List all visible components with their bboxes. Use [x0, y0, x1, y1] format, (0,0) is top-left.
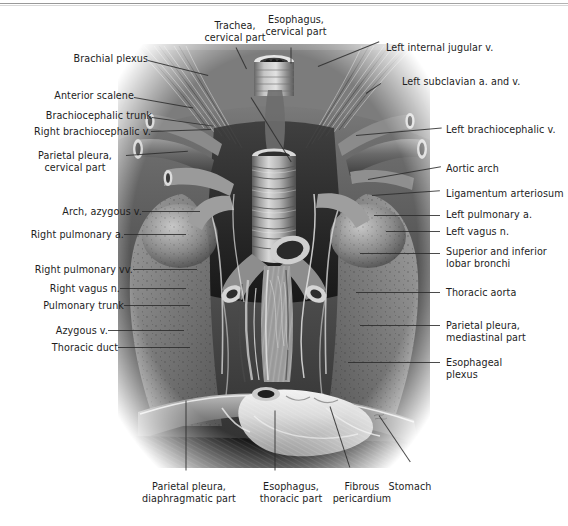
- label-right-vagus-n: Right vagus n.: [0, 283, 120, 295]
- label-anterior-scalene: Anterior scalene: [0, 90, 134, 102]
- label-left-internal-jugular-v: Left internal jugular v.: [386, 42, 566, 54]
- label-left-vagus-n: Left vagus n.: [446, 226, 568, 238]
- leader-lobar-bronchi: [360, 253, 440, 254]
- label-brachial-plexus: Brachial plexus: [0, 53, 148, 65]
- label-left-subclavian-a-and-v: Left subclavian a. and v.: [402, 76, 568, 88]
- label-arch-azygous-v: Arch, azygous v.: [0, 206, 142, 218]
- label-brachiocephalic-trunk: Brachiocephalic trunk: [0, 110, 152, 122]
- label-thoracic-aorta: Thoracic aorta: [446, 287, 568, 299]
- leader-right-pulmonary-vv: [133, 269, 197, 270]
- label-thoracic-duct: Thoracic duct: [0, 342, 118, 354]
- label-aortic-arch: Aortic arch: [446, 163, 568, 175]
- label-right-brachiocephalic-v: Right brachiocephalic v.: [0, 126, 151, 138]
- leader-esophageal-plexus: [348, 362, 440, 363]
- leader-parietal-pleura-diaphragmatic: [186, 401, 187, 471]
- label-ligamentum-arteriosum: Ligamentum arteriosum: [446, 188, 568, 200]
- page-edge-rule: [0, 3, 568, 4]
- mediastinum-illustration: [118, 44, 430, 468]
- leader-azygous-v: [108, 330, 184, 331]
- label-stomach: Stomach: [381, 481, 439, 493]
- label-esophagus-cervical: Esophagus, cervical part: [246, 14, 346, 37]
- label-pulmonary-trunk: Pulmonary trunk: [0, 300, 124, 312]
- label-left-brachiocephalic-v: Left brachiocephalic v.: [446, 124, 568, 136]
- leader-parietal-pleura-mediastinal: [360, 325, 440, 326]
- leader-thoracic-duct: [118, 347, 190, 348]
- label-azygous-v: Azygous v.: [0, 325, 108, 337]
- leader-pulmonary-trunk: [124, 305, 190, 306]
- label-parietal-pleura-diaphragmatic: Parietal pleura, diaphragmatic part: [141, 481, 237, 504]
- label-parietal-pleura-cervical: Parietal pleura, cervical part: [24, 150, 126, 173]
- leader-left-vagus-n: [386, 231, 440, 232]
- leader-esophagus-cervical: [291, 48, 292, 64]
- label-right-pulmonary-vv: Right pulmonary vv.: [0, 264, 133, 276]
- label-esophagus-thoracic: Esophagus, thoracic part: [250, 481, 332, 504]
- leader-right-vagus-n: [120, 288, 186, 289]
- leader-arch-azygous-v: [142, 211, 200, 212]
- label-parietal-pleura-mediastinal: Parietal pleura, mediastinal part: [446, 320, 568, 343]
- anatomical-plate: Brachial plexus Anterior scalene Brachio…: [0, 0, 568, 526]
- label-right-pulmonary-a: Right pulmonary a.: [0, 229, 124, 241]
- leader-thoracic-aorta: [356, 292, 440, 293]
- leader-right-pulmonary-a: [124, 234, 186, 235]
- page-edge-rule-2: [0, 5, 568, 6]
- leader-left-pulmonary-a: [374, 215, 440, 216]
- label-lobar-bronchi: Superior and inferior lobar bronchi: [446, 246, 568, 269]
- leader-esophagus-thoracic: [275, 411, 276, 471]
- label-left-pulmonary-a: Left pulmonary a.: [446, 209, 568, 221]
- label-esophageal-plexus: Esophageal plexus: [446, 357, 568, 380]
